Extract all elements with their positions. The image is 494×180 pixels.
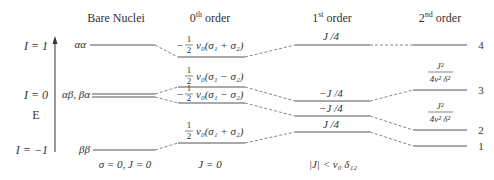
svg-text:−: −: [177, 88, 183, 100]
second-term-upper: J² 4ν² δ²: [428, 61, 453, 84]
svg-text:ν₀(σ₁ + σ₂): ν₀(σ₁ + σ₂): [196, 125, 244, 138]
svg-text:J²: J²: [437, 61, 444, 71]
state-alpha-alpha: αα: [74, 38, 86, 50]
first-term-2: −J /4: [319, 87, 343, 99]
label-I-plus-1: I = 1: [23, 39, 48, 53]
svg-text:ν₀(σ₁ − σ₂): ν₀(σ₁ − σ₂): [196, 88, 244, 101]
level-number-3: 3: [478, 84, 484, 96]
zeroth-term-4: 1 2 ν₀(σ₁ + σ₂): [185, 120, 244, 141]
first-term-4: J /4: [323, 118, 340, 130]
header-zeroth-order: 0th order: [190, 10, 231, 25]
state-alpha-beta-beta-alpha: αβ, βα: [62, 88, 90, 100]
first-term-3: −J /4: [319, 102, 343, 114]
svg-text:2: 2: [187, 93, 192, 103]
label-I-0: I = 0: [23, 88, 48, 102]
svg-text:1: 1: [187, 83, 192, 93]
level-number-1: 1: [478, 140, 484, 152]
energy-axis: [53, 36, 58, 152]
level-number-2: 2: [478, 124, 484, 136]
first-term-1: J /4: [323, 30, 340, 42]
svg-text:ν₀(σ₁ + σ₂): ν₀(σ₁ + σ₂): [196, 39, 244, 52]
state-beta-beta: ββ: [78, 143, 90, 155]
svg-text:ν₀(σ₁ − σ₂): ν₀(σ₁ − σ₂): [196, 70, 244, 83]
header-second-order: 2nd order: [419, 10, 461, 25]
energy-level-diagram: Bare Nuclei 0th order 1st order 2nd orde…: [0, 0, 494, 180]
header-first-order: 1st order: [312, 10, 352, 25]
svg-text:4ν² δ²: 4ν² δ²: [430, 114, 451, 124]
header-bare-nuclei: Bare Nuclei: [87, 11, 145, 25]
svg-text:−: −: [177, 39, 183, 51]
zeroth-term-2: 1 2 ν₀(σ₁ − σ₂): [185, 65, 244, 86]
svg-text:1: 1: [187, 34, 192, 44]
level-number-4: 4: [478, 39, 484, 51]
zeroth-term-1: − 1 2 ν₀(σ₁ + σ₂): [177, 34, 244, 55]
second-term-lower: J² 4ν² δ²: [428, 101, 453, 124]
connectors-first-to-second: [370, 45, 413, 146]
svg-text:2: 2: [187, 131, 192, 141]
svg-text:4ν² δ²: 4ν² δ²: [430, 74, 451, 84]
condition-zeroth: J = 0: [198, 158, 222, 170]
svg-text:1: 1: [187, 65, 192, 75]
zeroth-term-3: − 1 2 ν₀(σ₁ − σ₂): [177, 83, 244, 103]
arrow-up-icon: [53, 36, 58, 44]
svg-text:J²: J²: [437, 101, 444, 111]
connectors-zeroth-to-first: [245, 45, 295, 143]
condition-bare: σ = 0, J = 0: [99, 158, 152, 170]
condition-first: |J| < ν₀ δ₁₂: [309, 158, 357, 170]
label-I-minus-1: I = −1: [15, 143, 48, 157]
svg-text:1: 1: [187, 120, 192, 130]
label-energy-E: E: [32, 108, 39, 122]
connectors-bare-to-zeroth: [155, 45, 178, 150]
svg-text:2: 2: [187, 45, 192, 55]
